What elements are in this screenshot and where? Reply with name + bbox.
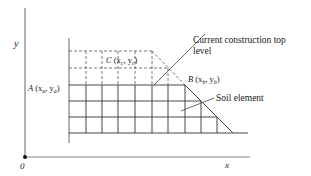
soil-construction-diagram: y x 0 A(xa, ya) C(xc, yc) B(xb, yb) Curr… <box>0 0 311 176</box>
x-axis-label: x <box>224 160 229 170</box>
soil-element-label: Soil element <box>216 93 264 103</box>
origin-label: 0 <box>20 161 25 171</box>
point-b-label: B(xb, yb) <box>188 74 220 85</box>
point-c-label: C(xc, yc) <box>106 55 138 66</box>
construction-level-label-line1: Current construction top <box>193 35 286 45</box>
origin-dot <box>23 155 27 159</box>
point-a-label: A(xa, ya) <box>27 83 60 94</box>
y-axis-label: y <box>13 38 19 49</box>
construction-level-label-line2: level <box>193 46 212 56</box>
